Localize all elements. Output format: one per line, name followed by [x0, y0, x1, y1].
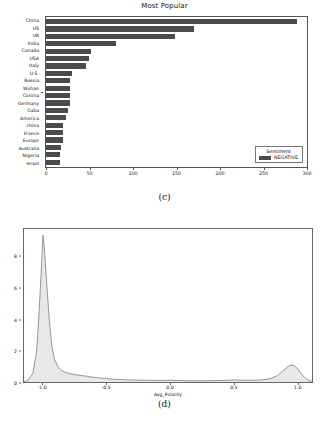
x-axis-tick-mark [177, 168, 178, 170]
bar[interactable] [46, 145, 61, 150]
density-x-axis-ticks: Avg_Polarity -1.0-0.50.00.51.0 [23, 383, 313, 397]
panel-caption-d: (d) [0, 399, 329, 409]
bar[interactable] [46, 152, 60, 157]
density-y-axis-tick-label: 2 [14, 349, 17, 354]
bar[interactable] [46, 108, 68, 113]
y-axis-tick-label: Israel [0, 161, 43, 166]
y-axis-tick-label: America [0, 116, 43, 121]
bar[interactable] [46, 93, 70, 98]
bar-row[interactable] [46, 86, 307, 91]
bar[interactable] [46, 19, 297, 24]
bar[interactable] [46, 26, 194, 31]
x-axis-tick-mark [220, 168, 221, 170]
bar-row[interactable] [46, 49, 307, 54]
y-axis-tick-label: Corona [0, 93, 43, 98]
legend-swatch-icon [259, 156, 271, 160]
density-y-axis-tick-mark [19, 256, 21, 257]
y-axis-tick-label: Australia [0, 146, 43, 151]
density-y-axis-tick-label: 8 [14, 254, 17, 259]
legend: Sentiment NEGATIVE [255, 146, 303, 163]
bar-row[interactable] [46, 122, 307, 127]
x-axis-tick-mark [264, 168, 265, 170]
bar[interactable] [46, 71, 72, 76]
y-axis-tick-label: china [0, 123, 43, 128]
figure-container: Most Popular ChinaUSUKIndiaCanadaUSAItal… [0, 0, 329, 427]
y-axis-tick-label: Wuhan [0, 86, 43, 91]
bar-row[interactable] [46, 71, 307, 76]
bar[interactable] [46, 63, 86, 68]
bar-row[interactable] [46, 56, 307, 61]
x-axis-tick-label: 150 [172, 171, 181, 176]
y-axis-tick-label: U.S. [0, 71, 43, 76]
bar[interactable] [46, 115, 66, 120]
bar-row[interactable] [46, 137, 307, 142]
density-y-axis-labels: 02468 [0, 228, 21, 383]
density-y-axis-tick-mark [19, 288, 21, 289]
bar-row[interactable] [46, 63, 307, 68]
bar-row[interactable] [46, 78, 307, 83]
x-axis-tick-mark [90, 168, 91, 170]
bar[interactable] [46, 41, 116, 46]
bar-row[interactable] [46, 41, 307, 46]
bar[interactable] [46, 78, 70, 83]
bar[interactable] [46, 86, 70, 91]
x-axis-tick-mark [133, 168, 134, 170]
bar-plot-area: Sentiment NEGATIVE [45, 16, 308, 168]
bar[interactable] [46, 34, 175, 39]
y-axis-tick-label: Russia [0, 78, 43, 83]
density-x-axis-tick-label: -1.0 [38, 385, 47, 390]
y-axis-tick-label: France [0, 131, 43, 136]
bar[interactable] [46, 56, 89, 61]
bar-row[interactable] [46, 93, 307, 98]
density-x-axis-title: Avg_Polarity [23, 392, 313, 397]
y-axis-tick-label: Italy [0, 63, 43, 68]
density-line [24, 235, 312, 381]
bar-row[interactable] [46, 115, 307, 120]
bar[interactable] [46, 137, 63, 142]
y-axis-tick-label: Europe [0, 138, 43, 143]
x-axis-tick-label: 50 [86, 171, 92, 176]
density-y-axis-tick-mark [19, 319, 21, 320]
density-x-axis-tick-label: 1.0 [294, 385, 301, 390]
density-y-axis-tick-label: 0 [14, 381, 17, 386]
y-axis-tick-label: Germany [0, 101, 43, 106]
y-axis-tick-label: Cuba [0, 108, 43, 113]
density-y-axis-tick-mark [19, 383, 21, 384]
legend-title: Sentiment [259, 149, 298, 154]
bar-row[interactable] [46, 26, 307, 31]
density-y-axis-tick-label: 4 [14, 317, 17, 322]
density-y-axis-tick-label: 6 [14, 286, 17, 291]
bar[interactable] [46, 49, 91, 54]
legend-item-negative: NEGATIVE [259, 155, 298, 160]
density-x-axis-tick-label: -0.5 [102, 385, 111, 390]
density-y-axis-tick-mark [19, 351, 21, 352]
bar-row[interactable] [46, 100, 307, 105]
panel-d-density-plot: 02468 Avg_Polarity -1.0-0.50.00.51.0 (d) [0, 228, 329, 403]
y-axis-tick-label: Nigeria [0, 153, 43, 158]
bar[interactable] [46, 160, 60, 165]
bar[interactable] [46, 100, 70, 105]
y-axis-tick-label: India [0, 41, 43, 46]
bar[interactable] [46, 130, 63, 135]
bar-row[interactable] [46, 19, 307, 24]
x-axis-tick-label: 250 [259, 171, 268, 176]
legend-item-label: NEGATIVE [274, 155, 298, 160]
bar-row[interactable] [46, 34, 307, 39]
x-axis-tick-label: 200 [215, 171, 224, 176]
density-plot-area [23, 228, 313, 383]
bar[interactable] [46, 123, 63, 128]
x-axis-tick-label: 0 [44, 171, 47, 176]
y-axis-tick-label: USA [0, 56, 43, 61]
bar-series-negative [46, 17, 307, 167]
chart-title: Most Popular [0, 2, 329, 10]
x-axis-tick-label: 100 [128, 171, 137, 176]
x-axis-ticks: 050100150200250300 [45, 168, 308, 184]
y-axis-tick-label: Canada [0, 48, 43, 53]
x-axis-tick-label: 300 [302, 171, 311, 176]
density-curve [24, 229, 312, 382]
bar-row[interactable] [46, 108, 307, 113]
x-axis-tick-mark [307, 168, 308, 170]
bar-row[interactable] [46, 130, 307, 135]
y-axis-category-labels: ChinaUSUKIndiaCanadaUSAItalyU.S.RussiaWu… [0, 16, 43, 168]
density-area-fill [24, 235, 312, 382]
